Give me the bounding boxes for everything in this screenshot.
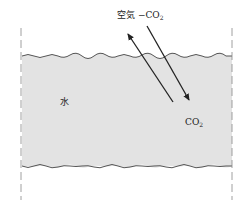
co2-label-top: CO (145, 10, 159, 20)
co2-dissolved-label: CO2 (185, 118, 203, 128)
air-label: 空気 (117, 10, 135, 20)
water-region (22, 53, 232, 168)
co2-subscript-top: 2 (160, 14, 164, 21)
air-co2-label: 空気 −CO2 (117, 11, 164, 21)
co2-label-bottom: CO (185, 117, 199, 127)
co2-subscript-bottom: 2 (199, 121, 203, 128)
co2-air-water-exchange-diagram: 空気 −CO2 水 CO2 (0, 0, 247, 206)
diagram-canvas (0, 0, 247, 206)
water-label: 水 (60, 98, 69, 107)
